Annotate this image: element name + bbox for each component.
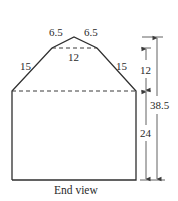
label-roof-height: 12 — [140, 64, 151, 76]
label-top-right-segment: 6.5 — [84, 26, 98, 38]
end-view-diagram: 6.5 6.5 12 15 15 12 24 38.5 End view — [0, 0, 178, 201]
label-left-slope: 15 — [20, 60, 32, 72]
label-total-height: 38.5 — [150, 99, 170, 111]
label-top-left-segment: 6.5 — [49, 26, 63, 38]
label-wall-height: 24 — [140, 127, 152, 139]
figure-caption: End view — [54, 184, 98, 196]
label-upper-width: 12 — [68, 51, 79, 63]
label-right-slope: 15 — [116, 60, 128, 72]
